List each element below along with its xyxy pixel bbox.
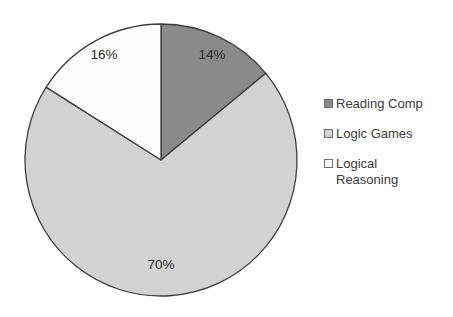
legend-swatch-logic-games (324, 129, 333, 138)
pie-slice-label: 70% (147, 257, 174, 272)
legend-swatch-reading-comp (324, 99, 333, 108)
pie-slice-label: 14% (198, 47, 225, 62)
pie-chart: 14%70%16% Reading Comp Logic Games Logic… (0, 0, 453, 317)
legend-label-logical-reasoning: Logical Reasoning (336, 156, 398, 188)
legend-item-logical-reasoning[interactable]: Logical Reasoning (324, 156, 453, 188)
legend-swatch-logical-reasoning (324, 159, 333, 168)
pie-svg: 14%70%16% (0, 0, 320, 317)
legend-item-reading-comp[interactable]: Reading Comp (324, 96, 453, 112)
legend-label-reading-comp: Reading Comp (336, 96, 423, 112)
legend-label-logic-games: Logic Games (336, 126, 413, 142)
pie-slice-label: 16% (90, 47, 117, 62)
pie-plot-area: 14%70%16% (0, 0, 320, 317)
chart-legend: Reading Comp Logic Games Logical Reasoni… (324, 96, 453, 202)
pie-slices-group (25, 24, 297, 296)
legend-item-logic-games[interactable]: Logic Games (324, 126, 453, 142)
